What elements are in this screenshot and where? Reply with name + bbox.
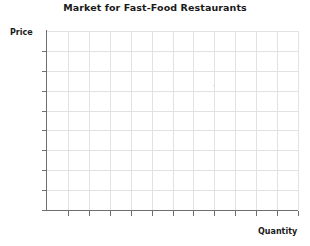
x-axis-tick: [173, 211, 174, 216]
chart-figure: Market for Fast-Food Restaurants Price Q…: [0, 0, 310, 246]
gridline-vertical: [235, 31, 236, 210]
x-axis-tick: [131, 211, 132, 216]
gridline-vertical: [173, 31, 174, 210]
chart-title: Market for Fast-Food Restaurants: [0, 2, 310, 13]
y-axis-tick: [42, 170, 47, 171]
x-axis-tick: [152, 211, 153, 216]
gridline-vertical: [68, 31, 69, 210]
gridline-vertical: [152, 31, 153, 210]
y-axis-tick: [42, 130, 47, 131]
gridline-vertical: [277, 31, 278, 210]
x-axis-tick: [68, 211, 69, 216]
x-axis-label: Quantity: [258, 227, 297, 236]
gridline-horizontal: [47, 170, 298, 171]
gridline-vertical: [131, 31, 132, 210]
y-axis-tick: [42, 190, 47, 191]
x-axis-tick: [214, 211, 215, 216]
y-axis-tick: [42, 150, 47, 151]
gridline-horizontal: [47, 111, 298, 112]
y-axis-tick: [42, 51, 47, 52]
x-axis-tick: [89, 211, 90, 216]
y-axis-tick: [42, 111, 47, 112]
gridline-vertical: [89, 31, 90, 210]
y-axis-line: [46, 30, 47, 211]
gridline-vertical: [256, 31, 257, 210]
gridline-horizontal: [47, 150, 298, 151]
gridline-horizontal: [47, 190, 298, 191]
y-axis-tick: [42, 210, 47, 211]
gridline-horizontal: [47, 31, 298, 32]
x-axis-tick: [277, 211, 278, 216]
y-axis-tick: [42, 71, 47, 72]
y-axis-tick: [42, 91, 47, 92]
gridline-horizontal: [47, 51, 298, 52]
gridline-vertical: [110, 31, 111, 210]
x-axis-tick: [110, 211, 111, 216]
gridline-horizontal: [47, 71, 298, 72]
plot-area: [47, 31, 298, 210]
gridline-horizontal: [47, 91, 298, 92]
x-axis-line: [46, 210, 298, 211]
x-axis-tick: [193, 211, 194, 216]
x-axis-tick: [298, 211, 299, 216]
y-axis-label: Price: [10, 28, 33, 37]
x-axis-tick: [256, 211, 257, 216]
x-axis-tick: [235, 211, 236, 216]
gridline-horizontal: [47, 130, 298, 131]
gridline-vertical: [214, 31, 215, 210]
gridline-vertical: [193, 31, 194, 210]
gridline-vertical: [298, 31, 299, 210]
